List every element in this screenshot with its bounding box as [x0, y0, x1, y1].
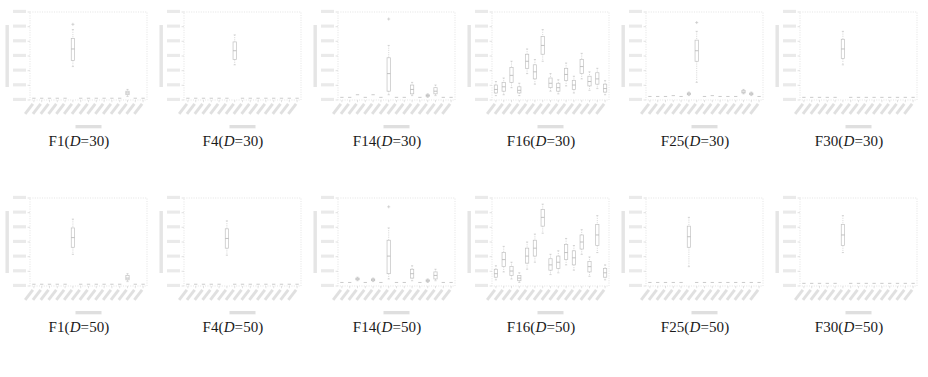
- boxplot-panel-f16-d50: [466, 190, 616, 318]
- caption-suffix: =30): [546, 133, 575, 149]
- boxplot-panel-f30-d50: [774, 190, 924, 318]
- figure-cell-f30-d50: F30(D=50): [772, 190, 926, 376]
- caption-dimension-symbol: D: [224, 319, 235, 335]
- panel-caption-f30-d50: F30(D=50): [815, 319, 884, 335]
- caption-dimension-symbol: D: [535, 319, 546, 335]
- boxplot-panel-f4-d30: [158, 4, 308, 132]
- figure-cell-f14-d50: F14(D=50): [310, 190, 464, 376]
- panel-caption-f14-d50: F14(D=50): [353, 319, 422, 335]
- figure-cell-f14-d30: F14(D=30): [310, 4, 464, 190]
- panel-caption-f16-d30: F16(D=30): [507, 133, 576, 149]
- panel-caption-f25-d30: F25(D=30): [661, 133, 730, 149]
- figure-cell-f4-d50: F4(D=50): [156, 190, 310, 376]
- boxplot-panel-f25-d30: [620, 4, 770, 132]
- boxplot-panel-f25-d50: [620, 190, 770, 318]
- panel-caption-f4-d30: F4(D=30): [203, 133, 264, 149]
- caption-suffix: =30): [235, 133, 264, 149]
- caption-prefix: F14(: [353, 319, 382, 335]
- caption-suffix: =50): [235, 319, 264, 335]
- caption-suffix: =30): [81, 133, 110, 149]
- caption-prefix: F1(: [49, 133, 70, 149]
- boxplot-panel-f16-d30: [466, 4, 616, 132]
- panel-caption-f14-d30: F14(D=30): [353, 133, 422, 149]
- caption-suffix: =50): [854, 319, 883, 335]
- panel-caption-f1-d30: F1(D=30): [49, 133, 110, 149]
- figure-cell-f16-d30: F16(D=30): [464, 4, 618, 190]
- caption-dimension-symbol: D: [689, 133, 700, 149]
- caption-suffix: =30): [700, 133, 729, 149]
- caption-prefix: F25(: [661, 319, 690, 335]
- boxplot-panel-f1-d30: [4, 4, 154, 132]
- figure-cell-f1-d30: F1(D=30): [2, 4, 156, 190]
- caption-prefix: F16(: [507, 319, 536, 335]
- figure-grid: F1(D=30)F4(D=30)F14(D=30)F16(D=30)F25(D=…: [0, 0, 928, 377]
- figure-cell-f30-d30: F30(D=30): [772, 4, 926, 190]
- caption-dimension-symbol: D: [689, 319, 700, 335]
- boxplot-panel-f30-d30: [774, 4, 924, 132]
- caption-dimension-symbol: D: [224, 133, 235, 149]
- caption-suffix: =30): [392, 133, 421, 149]
- caption-prefix: F4(: [203, 133, 224, 149]
- boxplot-panel-f14-d50: [312, 190, 462, 318]
- caption-dimension-symbol: D: [843, 319, 854, 335]
- boxplot-panel-f14-d30: [312, 4, 462, 132]
- figure-cell-f1-d50: F1(D=50): [2, 190, 156, 376]
- caption-dimension-symbol: D: [843, 133, 854, 149]
- caption-prefix: F14(: [353, 133, 382, 149]
- figure-cell-f25-d50: F25(D=50): [618, 190, 772, 376]
- figure-cell-f16-d50: F16(D=50): [464, 190, 618, 376]
- caption-prefix: F30(: [815, 133, 844, 149]
- caption-dimension-symbol: D: [70, 133, 81, 149]
- caption-suffix: =30): [854, 133, 883, 149]
- caption-prefix: F30(: [815, 319, 844, 335]
- boxplot-panel-f1-d50: [4, 190, 154, 318]
- figure-cell-f4-d30: F4(D=30): [156, 4, 310, 190]
- caption-suffix: =50): [700, 319, 729, 335]
- figure-cell-f25-d30: F25(D=30): [618, 4, 772, 190]
- caption-suffix: =50): [546, 319, 575, 335]
- caption-dimension-symbol: D: [381, 319, 392, 335]
- caption-suffix: =50): [81, 319, 110, 335]
- caption-prefix: F4(: [203, 319, 224, 335]
- panel-caption-f4-d50: F4(D=50): [203, 319, 264, 335]
- panel-caption-f1-d50: F1(D=50): [49, 319, 110, 335]
- caption-dimension-symbol: D: [381, 133, 392, 149]
- caption-suffix: =50): [392, 319, 421, 335]
- panel-caption-f16-d50: F16(D=50): [507, 319, 576, 335]
- caption-dimension-symbol: D: [535, 133, 546, 149]
- caption-prefix: F16(: [507, 133, 536, 149]
- caption-prefix: F25(: [661, 133, 690, 149]
- caption-dimension-symbol: D: [70, 319, 81, 335]
- panel-caption-f30-d30: F30(D=30): [815, 133, 884, 149]
- panel-caption-f25-d50: F25(D=50): [661, 319, 730, 335]
- boxplot-panel-f4-d50: [158, 190, 308, 318]
- caption-prefix: F1(: [49, 319, 70, 335]
